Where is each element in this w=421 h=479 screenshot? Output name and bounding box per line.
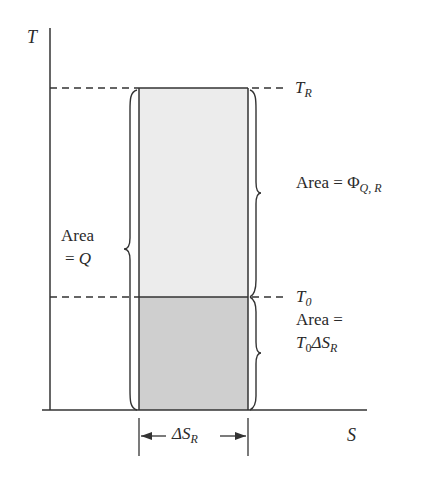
t-axis-label: T [27, 27, 37, 48]
left-area-label-line2: = Q [65, 249, 91, 269]
arrow-right-icon [235, 432, 246, 440]
right-brace-upper-icon [250, 90, 261, 297]
left-area-label-line1: Area [61, 226, 94, 246]
tr-label: TR [295, 78, 312, 98]
left-brace-icon [124, 90, 137, 410]
arrow-left-icon [141, 432, 152, 440]
upper-region [139, 88, 248, 297]
lower-region [139, 297, 248, 410]
t0-label: T0 [296, 287, 311, 307]
s-axis-label: S [347, 425, 356, 446]
right-brace-lower-icon [250, 297, 261, 410]
delta-s-label: ΔSR [172, 424, 198, 444]
upper-area-label: Area = ΦQ, R [296, 173, 382, 193]
lower-area-label-line2: T0ΔSR [296, 333, 337, 353]
lower-area-label-line1: Area = [296, 310, 343, 330]
